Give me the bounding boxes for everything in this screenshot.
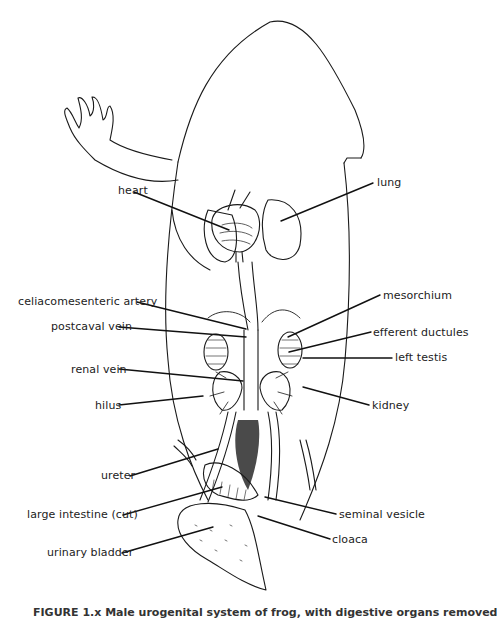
label-heart: heart: [118, 185, 148, 197]
label-renal-vein: renal vein: [71, 364, 127, 376]
label-large-intestine-cut: large intestine (cut): [27, 509, 138, 521]
label-hilus: hilus: [95, 400, 121, 412]
head-outline: [178, 21, 364, 162]
label-cloaca: cloaca: [332, 534, 368, 546]
urinary-bladder: [178, 503, 266, 590]
lung-right-outline: [262, 200, 301, 260]
ureter-right: [268, 412, 280, 500]
label-lung: lung: [377, 177, 401, 189]
testis-left: [204, 334, 228, 370]
label-mesorchium: mesorchium: [383, 290, 452, 302]
kidney-left: [213, 372, 242, 411]
label-postcaval-vein: postcaval vein: [51, 321, 132, 333]
label-left-testis: left testis: [395, 352, 447, 364]
postcaval-vein: [244, 330, 258, 410]
label-efferent-ductules: efferent ductules: [373, 327, 469, 339]
label-celiacomesenteric-artery: celiacomesenteric artery: [18, 296, 157, 308]
label-seminal-vesicle: seminal vesicle: [339, 509, 425, 521]
figure-caption: FIGURE 1.x Male urogenital system of fro…: [33, 606, 497, 619]
forelimb-outline: [65, 97, 178, 181]
label-ureter: ureter: [101, 470, 135, 482]
label-urinary-bladder: urinary bladder: [47, 547, 133, 559]
label-kidney: kidney: [372, 400, 409, 412]
kidney-right: [260, 372, 290, 411]
lung-left-outline: [204, 210, 236, 262]
